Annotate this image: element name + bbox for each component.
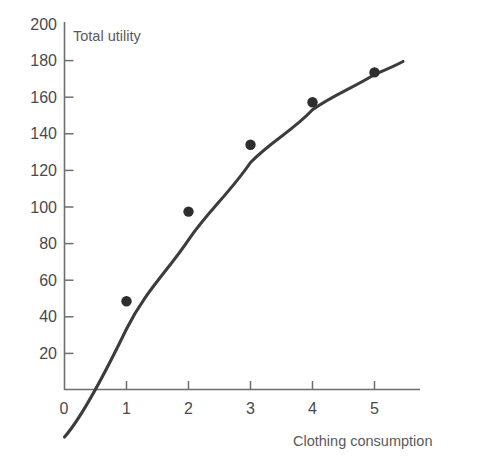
y-tick-label: 180 [30,52,57,69]
y-tick-label: 160 [30,89,57,106]
y-tick-label: 40 [39,308,57,325]
x-tick-label: 0 [60,400,69,417]
x-tick-label: 3 [246,400,255,417]
x-axis-title: Clothing consumption [293,433,432,449]
total-utility-chart: 20 40 60 80 100 120 140 160 180 200 0 1 … [0,0,478,469]
y-tick-label: 140 [30,125,57,142]
y-tick-label: 20 [39,345,57,362]
data-point-marker[interactable] [245,140,255,150]
x-tick-label: 4 [308,400,317,417]
y-tick-label: 200 [30,16,57,33]
chart-page: FOR THE INDIVIDUAL 20 40 60 80 100 [0,0,478,469]
data-point-marker[interactable] [307,97,317,107]
y-tick-label: 80 [39,235,57,252]
data-point-marker[interactable] [183,206,193,216]
data-point-marker[interactable] [121,296,131,306]
y-tick-label: 120 [30,162,57,179]
x-tick-label: 1 [122,400,131,417]
y-tick-label: 100 [30,199,57,216]
data-point-marker[interactable] [369,67,379,77]
y-tick-label: 60 [39,272,57,289]
x-tick-label: 2 [184,400,193,417]
y-axis-title: Total utility [73,28,141,44]
chart-background [0,0,478,469]
x-tick-label: 5 [370,400,379,417]
